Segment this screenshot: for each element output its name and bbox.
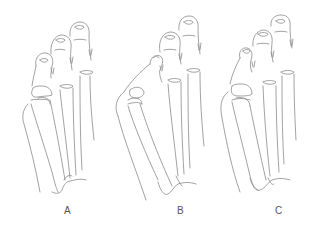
foot-b: [116, 16, 204, 200]
foot-c: [221, 15, 296, 192]
panel-label-c: C: [275, 205, 282, 216]
panel-label-a: A: [64, 205, 71, 216]
foot-a: [23, 22, 94, 193]
panel-label-b: B: [177, 205, 184, 216]
foot-diagrams: [0, 0, 321, 237]
